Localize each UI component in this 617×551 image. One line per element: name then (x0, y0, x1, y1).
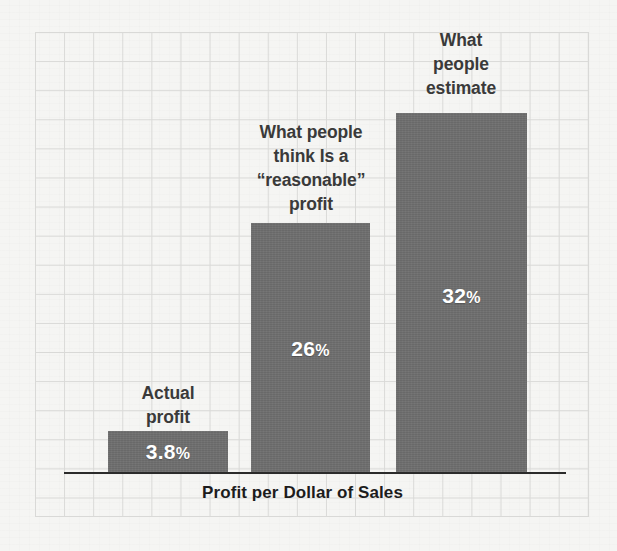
bar-value-number: 26 (291, 337, 315, 360)
x-axis-title-text: Profit per Dollar of Sales (202, 483, 403, 503)
bar-reasonable-profit[interactable]: 26% (251, 223, 370, 472)
bar-label-reasonable-profit: What people think Is a “reasonable” prof… (232, 120, 390, 216)
x-axis-line (64, 472, 566, 474)
bar-label-line: “reasonable” (232, 168, 390, 192)
bar-label-line: What (388, 28, 534, 52)
bar-label-people-estimate: What people estimate (388, 28, 534, 100)
bar-actual-profit[interactable]: 3.8% (108, 431, 228, 472)
x-axis-title: Profit per Dollar of Sales (0, 483, 617, 503)
bar-value-people-estimate: 32% (396, 284, 527, 308)
percent-sign: % (315, 342, 330, 359)
bar-value-actual-profit: 3.8% (108, 440, 228, 464)
bar-value-number: 3.8 (146, 440, 176, 463)
percent-sign: % (176, 445, 191, 462)
bar-chart-plot-area: Actual profit 3.8% What people think Is … (0, 0, 617, 551)
bar-label-actual-profit: Actual profit (95, 381, 241, 429)
bar-value-number: 32 (442, 284, 466, 307)
bar-label-line: What people (232, 120, 390, 144)
bar-label-line: Actual (95, 381, 241, 405)
bar-label-line: profit (232, 192, 390, 216)
bar-value-reasonable-profit: 26% (251, 337, 370, 361)
bar-people-estimate[interactable]: 32% (396, 113, 527, 472)
bar-label-line: think Is a (232, 144, 390, 168)
bar-label-line: estimate (388, 76, 534, 100)
bar-label-line: profit (95, 405, 241, 429)
percent-sign: % (466, 289, 481, 306)
bar-label-line: people (388, 52, 534, 76)
